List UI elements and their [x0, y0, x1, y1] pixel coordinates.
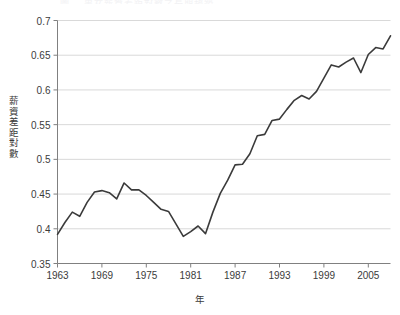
y-tick-label: 0.55: [0, 119, 51, 130]
data-series-line: [58, 36, 391, 237]
x-tick-label: 2005: [348, 270, 388, 281]
x-axis-tick-marks: [54, 21, 369, 268]
x-tick-label: 1963: [38, 270, 78, 281]
x-tick-label: 1999: [304, 270, 344, 281]
x-tick-label: 1993: [260, 270, 300, 281]
y-tick-label: 0.5: [0, 154, 51, 165]
y-tick-label: 0.4: [0, 223, 51, 234]
x-axis-title: 年: [0, 292, 400, 306]
y-tick-label: 0.45: [0, 189, 51, 200]
chart-figure: 圖二 男女薪資差距對數之長期趨勢 薪資差距對數 年 0.350.40.450.5…: [0, 0, 400, 315]
figure-title-remnant: 圖二 男女薪資差距對數之長期趨勢: [60, 0, 360, 4]
y-tick-label: 0.35: [0, 258, 51, 269]
y-tick-label: 0.7: [0, 15, 51, 26]
y-tick-label: 0.65: [0, 50, 51, 61]
x-tick-label: 1981: [171, 270, 211, 281]
x-tick-label: 1975: [126, 270, 166, 281]
y-tick-label: 0.6: [0, 84, 51, 95]
x-tick-label: 1969: [82, 270, 122, 281]
gridlines: [58, 21, 391, 229]
x-tick-label: 1987: [215, 270, 255, 281]
plot-area: [0, 0, 400, 315]
